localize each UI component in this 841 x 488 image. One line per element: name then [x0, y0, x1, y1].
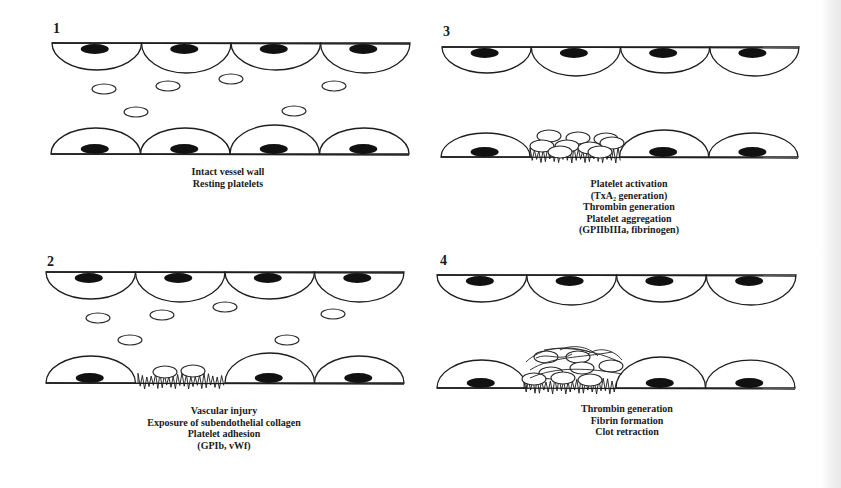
- adherent-platelet: [551, 372, 575, 384]
- cell-nucleus: [738, 48, 766, 58]
- diagram-canvas: 1Intact vessel wallResting platelets2Vas…: [0, 0, 841, 488]
- top-vessel-wall: [46, 272, 404, 302]
- cell-nucleus: [735, 378, 763, 388]
- panel-number: 3: [443, 24, 450, 39]
- resting-platelet: [321, 309, 345, 319]
- cell-nucleus: [170, 44, 198, 54]
- caption-line: Platelet aggregation: [586, 213, 672, 224]
- panel-caption: Vascular injuryExposure of subendothelia…: [147, 405, 301, 452]
- panel-1: 1Intact vessel wallResting platelets: [51, 21, 410, 189]
- caption-line: Thrombin generation: [581, 403, 673, 414]
- cell-nucleus: [735, 276, 763, 286]
- cell-nucleus: [81, 44, 109, 54]
- caption-line: Exposure of subendothelial collagen: [147, 417, 301, 428]
- adherent-platelet: [588, 146, 612, 158]
- top-vessel-wall: [52, 43, 410, 73]
- cell-nucleus: [560, 48, 588, 58]
- resting-platelet: [124, 107, 148, 117]
- caption-line: Resting platelets: [193, 178, 263, 189]
- panel-number: 1: [53, 21, 60, 36]
- cell-nucleus: [645, 276, 673, 286]
- adherent-platelet: [578, 374, 602, 386]
- cell-nucleus: [556, 276, 584, 286]
- cell-nucleus: [344, 373, 372, 383]
- caption-line: Intact vessel wall: [192, 166, 265, 177]
- cell-nucleus: [349, 44, 377, 54]
- panel-caption: Intact vessel wallResting platelets: [192, 166, 265, 189]
- panel-number: 4: [440, 253, 447, 268]
- caption-line: Clot retraction: [595, 426, 659, 437]
- adherent-platelet: [153, 366, 177, 378]
- resting-platelet: [92, 84, 116, 94]
- adherent-platelet: [548, 146, 572, 158]
- panel-2: 2Vascular injuryExposure of subendotheli…: [46, 254, 404, 452]
- cell-nucleus: [471, 147, 499, 157]
- cell-nucleus: [738, 147, 766, 157]
- caption-line: Thrombin generation: [583, 201, 675, 212]
- cell-nucleus: [75, 273, 103, 283]
- hemostasis-diagram: 1Intact vessel wallResting platelets2Vas…: [0, 0, 841, 488]
- cell-nucleus: [649, 147, 677, 157]
- resting-platelet: [118, 335, 142, 345]
- resting-platelet: [282, 106, 306, 116]
- cell-nucleus: [467, 378, 495, 388]
- adherent-platelet: [181, 365, 205, 377]
- resting-platelet: [150, 310, 174, 320]
- cell-nucleus: [260, 144, 288, 154]
- cell-nucleus: [254, 273, 282, 283]
- subendothelial-collagen: [138, 373, 224, 389]
- cell-nucleus: [255, 373, 283, 383]
- cell-nucleus: [76, 373, 104, 383]
- top-vessel-wall: [437, 275, 796, 305]
- resting-platelet: [86, 313, 110, 323]
- resting-platelet: [322, 81, 346, 91]
- scan-edge-shading: [821, 0, 841, 488]
- resting-platelet: [156, 81, 180, 91]
- panel-caption: Thrombin generationFibrin formationClot …: [581, 403, 673, 437]
- bottom-vessel-wall: [51, 125, 409, 155]
- resting-platelet: [213, 302, 237, 312]
- cell-nucleus: [471, 48, 499, 58]
- caption-line: Platelet adhesion: [188, 428, 261, 439]
- resting-platelet: [275, 335, 299, 345]
- cell-nucleus: [649, 48, 677, 58]
- caption-line: Platelet activation: [591, 178, 668, 189]
- panel-3: 3Platelet activation(TxA₂ generation)Thr…: [441, 24, 799, 236]
- caption-line: Fibrin formation: [591, 415, 664, 426]
- adherent-platelet: [570, 362, 594, 374]
- panel-caption: Platelet activation(TxA₂ generation)Thro…: [579, 178, 679, 236]
- caption-line: (GPIIbIIIa, fibrinogen): [579, 224, 679, 236]
- resting-platelet: [219, 74, 243, 84]
- cell-nucleus: [170, 144, 198, 154]
- caption-line: (GPIb, vWf): [197, 440, 250, 452]
- panel-4: 4Thrombin generationFibrin formationClot…: [437, 253, 796, 437]
- top-vessel-wall: [442, 47, 799, 76]
- caption-line: (TxA₂ generation): [591, 190, 668, 202]
- bottom-vessel-wall: [46, 353, 404, 384]
- cell-nucleus: [164, 273, 192, 283]
- cell-nucleus: [260, 44, 288, 54]
- cell-nucleus: [343, 273, 371, 283]
- caption-line: Vascular injury: [191, 405, 257, 416]
- cell-nucleus: [646, 378, 674, 388]
- cell-nucleus: [466, 276, 494, 286]
- cell-nucleus: [349, 144, 377, 154]
- adherent-platelet: [522, 373, 546, 385]
- panel-number: 2: [47, 254, 54, 269]
- cell-nucleus: [81, 144, 109, 154]
